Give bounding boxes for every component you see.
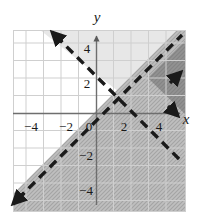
y-tick-label-pos2: 2: [84, 76, 91, 91]
x-tick-label-pos2: 2: [121, 119, 128, 134]
coordinate-plane-svg: x y −4 −2 0 2 4 4 2 −2 −4: [0, 0, 201, 215]
x-axis-label: x: [182, 111, 190, 127]
y-tick-label-neg4: −4: [79, 183, 93, 198]
y-axis-label: y: [92, 9, 101, 25]
graph-figure: x y −4 −2 0 2 4 4 2 −2 −4: [0, 0, 201, 215]
x-tick-label-pos4: 4: [156, 119, 163, 134]
y-tick-label-neg2: −2: [79, 148, 93, 163]
x-tick-label-zero: 0: [86, 119, 93, 134]
x-tick-label-neg4: −4: [24, 119, 38, 134]
y-tick-label-pos4: 4: [84, 41, 91, 56]
x-tick-label-neg2: −2: [59, 119, 73, 134]
